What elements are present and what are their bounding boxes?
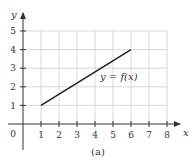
grid — [23, 31, 167, 124]
y-tick-label: 4 — [10, 45, 16, 55]
y-axis-label: y — [10, 9, 17, 20]
x-tick-label: 4 — [92, 130, 98, 140]
y-tick-label: 1 — [10, 101, 16, 111]
y-tick-labels: 1 2 3 4 5 — [10, 26, 16, 110]
x-tick-label: 5 — [110, 130, 116, 140]
x-tick-label: 7 — [146, 130, 152, 140]
x-tick-label: 8 — [164, 130, 170, 140]
x-tick-label: 1 — [38, 130, 44, 140]
y-tick-label: 3 — [10, 63, 16, 73]
x-tick-label: 6 — [128, 130, 134, 140]
chart: 1 2 3 4 5 6 7 8 1 2 3 4 5 0 y x y = f(x)… — [0, 0, 192, 161]
x-tick-label: 2 — [56, 130, 62, 140]
x-axis-label: x — [183, 127, 189, 138]
x-tick-labels: 1 2 3 4 5 6 7 8 — [38, 130, 170, 140]
figure-caption: (a) — [91, 146, 105, 157]
y-tick-label: 2 — [10, 82, 16, 92]
origin-label: 0 — [10, 129, 16, 139]
y-tick-label: 5 — [10, 26, 16, 36]
x-tick-label: 3 — [74, 130, 80, 140]
function-label: y = f(x) — [99, 71, 138, 82]
